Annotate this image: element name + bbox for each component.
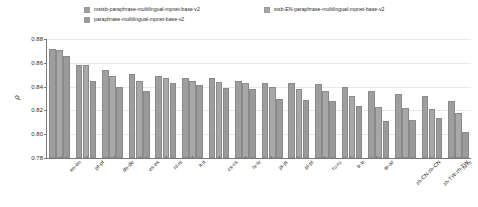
bar[interactable] — [109, 76, 116, 158]
bar-group — [129, 39, 150, 158]
bar[interactable] — [76, 65, 83, 158]
bar[interactable] — [462, 132, 469, 158]
bar-series-container — [47, 39, 471, 158]
x-axis-tick-label: it-it — [197, 159, 206, 168]
legend-item-stsb-en[interactable]: stsb-EN-paraphrase-multilingual-mpnet-ba… — [264, 7, 464, 13]
bar[interactable] — [356, 106, 363, 158]
legend-item-paraphrase[interactable]: paraphrase-multilingual-mpnet-base-v2 — [84, 17, 264, 23]
x-axis-tick — [455, 156, 456, 159]
x-axis-tick-label: lv-lv — [251, 159, 262, 170]
y-axis-tick-label: 0.86 — [31, 60, 43, 66]
bar-group — [395, 39, 416, 158]
bar[interactable] — [235, 81, 242, 158]
bar[interactable] — [223, 88, 230, 158]
x-axis-tick — [140, 156, 141, 159]
bar[interactable] — [129, 74, 136, 158]
bar[interactable] — [368, 91, 375, 158]
bar[interactable] — [448, 101, 455, 158]
y-axis-title: ρ — [12, 95, 21, 99]
bar[interactable] — [395, 94, 402, 158]
x-axis-tick — [271, 156, 272, 159]
y-axis-tick-label: 0.82 — [31, 107, 43, 113]
bar[interactable] — [242, 83, 249, 158]
bar[interactable] — [436, 118, 443, 158]
bar[interactable] — [296, 89, 303, 158]
bar[interactable] — [83, 65, 90, 158]
bar[interactable] — [342, 87, 349, 158]
y-axis-tick-label: 0.80 — [31, 131, 43, 137]
bar[interactable] — [63, 56, 70, 158]
bar[interactable] — [136, 81, 143, 158]
bar[interactable] — [402, 108, 409, 158]
x-axis-tick — [429, 156, 430, 159]
legend-label: mstsb-paraphrase-multilingual-mpnet-base… — [94, 7, 200, 12]
bar[interactable] — [288, 83, 295, 158]
x-axis-tick-label: cs-cs — [225, 159, 238, 172]
x-axis-labels: en-enpt-ptde-dees-esnl-nlit-itcs-cslv-lv… — [46, 159, 470, 207]
x-axis-tick — [402, 156, 403, 159]
bar-group — [448, 39, 469, 158]
bar[interactable] — [329, 101, 336, 158]
bar-group — [342, 39, 363, 158]
bar[interactable] — [216, 82, 223, 158]
bar[interactable] — [249, 89, 256, 158]
bar-group — [288, 39, 309, 158]
bar[interactable] — [49, 49, 56, 158]
bar[interactable] — [196, 85, 203, 158]
x-axis-tick — [219, 156, 220, 159]
bar[interactable] — [182, 78, 189, 158]
bar-group — [368, 39, 389, 158]
x-axis-tick — [245, 156, 246, 159]
bar-group — [209, 39, 230, 158]
bar[interactable] — [455, 113, 462, 158]
x-axis-tick — [61, 156, 62, 159]
bar[interactable] — [143, 91, 150, 158]
bar-group — [182, 39, 203, 158]
bar-group — [262, 39, 283, 158]
bar[interactable] — [209, 78, 216, 158]
x-axis-tick — [166, 156, 167, 159]
bar[interactable] — [170, 83, 177, 158]
bar-group — [155, 39, 176, 158]
bar[interactable] — [163, 78, 170, 158]
legend-item-mstsb[interactable]: mstsb-paraphrase-multilingual-mpnet-base… — [84, 7, 264, 13]
x-axis-tick-label: ja-ja — [277, 159, 288, 170]
x-axis-tick — [376, 156, 377, 159]
bar[interactable] — [383, 121, 390, 158]
legend-label: paraphrase-multilingual-mpnet-base-v2 — [94, 17, 184, 22]
bar[interactable] — [303, 100, 310, 158]
x-axis-tick-label: ar-ar — [382, 159, 394, 171]
bar[interactable] — [322, 91, 329, 158]
bar-chart-figure: mstsb-paraphrase-multilingual-mpnet-base… — [0, 0, 478, 207]
bar[interactable] — [262, 83, 269, 158]
x-axis-tick — [87, 156, 88, 159]
x-axis-tick-label: pt-pt — [94, 159, 106, 171]
x-axis-tick-label: es-es — [147, 159, 161, 173]
bar[interactable] — [155, 76, 162, 158]
y-axis-tick-label: 0.78 — [31, 155, 43, 161]
bar[interactable] — [429, 109, 436, 158]
bar-group — [235, 39, 256, 158]
x-axis-tick — [350, 156, 351, 159]
bar[interactable] — [269, 87, 276, 158]
bar[interactable] — [422, 96, 429, 158]
y-axis-tick-label: 0.84 — [31, 84, 43, 90]
bar[interactable] — [102, 70, 109, 158]
x-axis-tick — [297, 156, 298, 159]
x-axis-tick — [192, 156, 193, 159]
x-axis-tick — [114, 156, 115, 159]
bar-group — [76, 39, 97, 158]
bar[interactable] — [276, 99, 283, 159]
x-axis-tick — [324, 156, 325, 159]
bar[interactable] — [90, 81, 97, 158]
bar[interactable] — [315, 84, 322, 158]
bar[interactable] — [189, 81, 196, 158]
bar[interactable] — [116, 87, 123, 158]
bar[interactable] — [409, 120, 416, 158]
bar-group — [315, 39, 336, 158]
legend-label: stsb-EN-paraphrase-multilingual-mpnet-ba… — [274, 7, 384, 12]
x-axis-tick-label: de-de — [121, 159, 135, 173]
bar[interactable] — [349, 96, 356, 158]
bar[interactable] — [375, 107, 382, 158]
bar[interactable] — [56, 50, 63, 158]
